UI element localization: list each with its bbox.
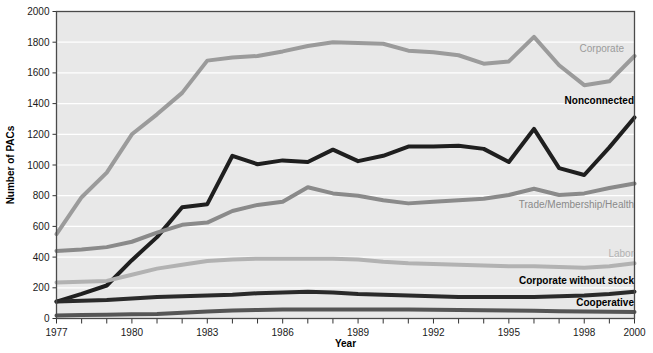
y-tick-label-1800: 1800 <box>27 37 50 48</box>
series-label-corporate-without-stock: Corporate without stock <box>519 275 634 286</box>
y-tick-label-800: 800 <box>33 190 50 201</box>
series-label-corporate: Corporate <box>580 43 625 54</box>
y-tick-label-1600: 1600 <box>27 67 50 78</box>
series-label-labor: Labor <box>608 248 634 259</box>
y-tick-label-1400: 1400 <box>27 98 50 109</box>
x-tick-label-1980: 1980 <box>121 327 144 338</box>
x-tick-label-2000: 2000 <box>623 327 646 338</box>
pac-count-line-chart: 0200400600800100012001400160018002000197… <box>0 0 653 353</box>
x-tick-label-1995: 1995 <box>498 327 521 338</box>
chart-canvas: 0200400600800100012001400160018002000197… <box>0 0 653 353</box>
y-tick-label-1200: 1200 <box>27 129 50 140</box>
series-label-cooperative: Cooperative <box>576 297 634 308</box>
y-tick-label-200: 200 <box>33 282 50 293</box>
series-label-nonconnected: Nonconnected <box>565 95 634 106</box>
y-tick-label-400: 400 <box>33 252 50 263</box>
y-tick-label-1000: 1000 <box>27 160 50 171</box>
x-tick-label-1998: 1998 <box>573 327 596 338</box>
y-tick-label-600: 600 <box>33 221 50 232</box>
x-axis-title: Year <box>335 338 356 349</box>
x-tick-label-1986: 1986 <box>272 327 295 338</box>
y-tick-label-2000: 2000 <box>27 6 50 17</box>
x-tick-label-1989: 1989 <box>347 327 370 338</box>
y-tick-label-0: 0 <box>44 313 50 324</box>
x-tick-label-1992: 1992 <box>422 327 445 338</box>
series-label-trade-membership-health: Trade/Membership/Health <box>519 199 634 210</box>
x-tick-label-1977: 1977 <box>45 327 68 338</box>
y-axis-title: Number of PACs <box>5 125 16 204</box>
x-tick-label-1983: 1983 <box>196 327 219 338</box>
